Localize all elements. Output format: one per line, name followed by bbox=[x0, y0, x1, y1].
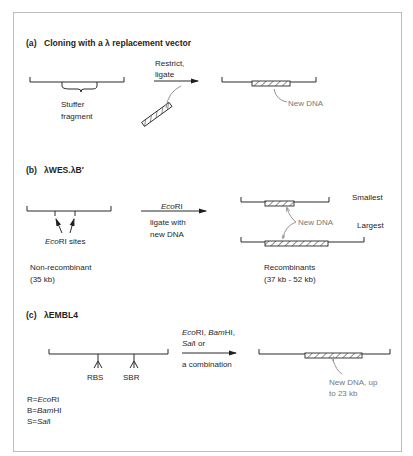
panel-c-label: (c) bbox=[26, 310, 37, 320]
new-dna-pointer bbox=[333, 360, 342, 374]
arrow-label-ligate: ligate bbox=[155, 70, 175, 79]
arrow-enzymes-line2: SalI or bbox=[182, 339, 205, 348]
key-bamhi: B=BamHI bbox=[27, 406, 61, 415]
panel-c-title: λEMBL4 bbox=[44, 310, 78, 320]
sbr-label: SBR bbox=[123, 373, 140, 382]
smallest-insert bbox=[265, 201, 294, 206]
arrow-label-ligate: ligate with bbox=[150, 218, 186, 227]
new-dna-insert bbox=[305, 353, 362, 358]
largest-insert bbox=[265, 241, 328, 246]
arrow-enzyme-label: EcoRI bbox=[161, 202, 183, 211]
non-recombinant-dna-line bbox=[27, 206, 111, 211]
new-dna-pointer-top bbox=[287, 208, 296, 222]
panel-a: (a) Cloning with a λ replacement vector … bbox=[26, 38, 324, 126]
key-sali: S=SalI bbox=[27, 417, 51, 426]
new-dna-pointer-bottom bbox=[283, 222, 296, 238]
non-recombinant-label: Non-recombinant bbox=[30, 263, 92, 272]
new-dna-insert bbox=[252, 81, 290, 86]
key-ecori: R=EcoRI bbox=[27, 395, 59, 404]
panel-c: (c) λEMBL4 RBS SBR R=EcoRI B=BamHI S=Sal… bbox=[26, 310, 390, 426]
largest-label: Largest bbox=[357, 221, 384, 230]
new-dna-label-line1: New DNA, up bbox=[329, 378, 378, 387]
panel-b-title: λWES.λB′ bbox=[44, 165, 84, 175]
site-pointer-2 bbox=[70, 219, 74, 233]
recombinants-size: (37 kb - 52 kb) bbox=[264, 275, 316, 284]
new-dna-label: New DNA bbox=[298, 218, 334, 227]
stuffer-label-line2: fragment bbox=[61, 112, 93, 121]
arrow-label-new-dna: new DNA bbox=[150, 230, 184, 239]
site-pointer-1 bbox=[56, 219, 62, 233]
panel-a-label: (a) bbox=[26, 38, 37, 48]
new-dna-label: New DNA bbox=[288, 99, 324, 108]
panel-b: (b) λWES.λB′ EcoRI sites Non-recombinant… bbox=[26, 165, 384, 284]
new-dna-pointer bbox=[274, 89, 287, 102]
embl4-dna-line bbox=[49, 349, 168, 354]
smallest-label: Smallest bbox=[352, 193, 383, 202]
panel-b-label: (b) bbox=[26, 165, 37, 175]
arrow-enzymes-line3: a combination bbox=[182, 360, 232, 369]
stuffer-brace bbox=[62, 82, 97, 92]
recombinants-label: Recombinants bbox=[264, 263, 315, 272]
stuffer-label-line1: Stuffer bbox=[61, 100, 85, 109]
new-dna-label-line2: to 23 kb bbox=[329, 389, 358, 398]
arrow-enzymes-line1: EcoRI, BamHI, bbox=[182, 328, 235, 337]
sbr-site-marker bbox=[130, 354, 138, 368]
insert-dna-fragment bbox=[142, 102, 172, 126]
ecori-sites-label: EcoRI sites bbox=[45, 237, 85, 246]
lambda-vector-diagram: (a) Cloning with a λ replacement vector … bbox=[0, 0, 413, 456]
vector-dna-line bbox=[30, 77, 124, 82]
arrow-label-restrict: Restrict, bbox=[155, 59, 184, 68]
rbs-label: RBS bbox=[87, 373, 103, 382]
panel-a-title: Cloning with a λ replacement vector bbox=[44, 38, 192, 48]
non-recombinant-size: (35 kb) bbox=[30, 275, 55, 284]
rbs-site-marker bbox=[94, 354, 102, 368]
